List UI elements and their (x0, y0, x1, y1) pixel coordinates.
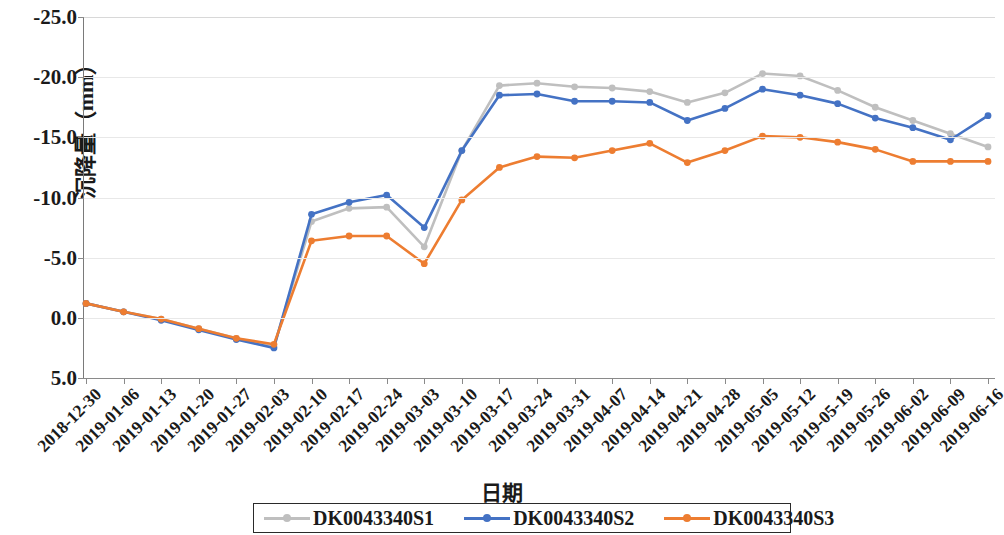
y-tick-mark (78, 258, 84, 259)
data-point (609, 147, 616, 154)
series-DK0043340S3 (83, 133, 992, 348)
data-point (233, 335, 240, 342)
x-axis-title: 日期 (0, 476, 1004, 506)
legend-label: DK0043340S3 (713, 507, 834, 530)
gridline (84, 318, 995, 319)
data-point (120, 308, 127, 315)
data-point (496, 164, 503, 171)
data-point (571, 154, 578, 161)
legend-marker (283, 514, 291, 522)
y-tick-label: 0.0 (7, 305, 77, 330)
data-point (947, 158, 954, 165)
data-point (83, 300, 90, 307)
data-point (421, 224, 428, 231)
data-point (383, 233, 390, 240)
y-tick-mark (78, 318, 84, 319)
data-point (534, 153, 541, 160)
data-point (646, 140, 653, 147)
data-point (195, 325, 202, 332)
gridline (84, 378, 995, 379)
x-tick-mark (838, 378, 839, 384)
x-tick-mark (499, 378, 500, 384)
data-point (872, 146, 879, 153)
data-point (383, 204, 390, 211)
x-tick-mark (763, 378, 764, 384)
x-tick-mark (800, 378, 801, 384)
x-tick-mark (349, 378, 350, 384)
y-tick-mark (78, 378, 84, 379)
legend-marker (683, 514, 691, 522)
chart-legend: DK0043340S1DK0043340S2DK0043340S3 (253, 503, 791, 533)
x-axis-tick-labels: 2018-12-302019-01-062019-01-132019-01-20… (0, 0, 1004, 140)
x-tick-mark (725, 378, 726, 384)
data-point (308, 211, 315, 218)
x-tick-mark (236, 378, 237, 384)
legend-swatch-icon (664, 511, 710, 525)
data-point (346, 205, 353, 212)
y-tick-label: -10.0 (7, 185, 77, 210)
x-tick-mark (913, 378, 914, 384)
x-tick-mark (387, 378, 388, 384)
data-point (722, 147, 729, 154)
data-point (985, 158, 992, 165)
x-tick-mark (950, 378, 951, 384)
x-tick-mark (575, 378, 576, 384)
legend-item-DK0043340S1[interactable]: DK0043340S1 (264, 507, 434, 530)
x-tick-mark (274, 378, 275, 384)
data-point (271, 341, 278, 348)
data-point (158, 316, 165, 323)
x-tick-mark (650, 378, 651, 384)
data-point (985, 144, 992, 151)
y-tick-mark (78, 198, 84, 199)
legend-swatch-icon (264, 511, 310, 525)
legend-marker (483, 514, 491, 522)
y-tick-label: 5.0 (7, 366, 77, 391)
gridline (84, 198, 995, 199)
x-tick-mark (462, 378, 463, 384)
x-tick-mark (875, 378, 876, 384)
x-tick-mark (124, 378, 125, 384)
x-tick-mark (988, 378, 989, 384)
x-tick-mark (161, 378, 162, 384)
legend-swatch-icon (464, 511, 510, 525)
data-point (346, 199, 353, 206)
x-tick-mark (199, 378, 200, 384)
data-point (421, 243, 428, 250)
series-line (86, 136, 988, 344)
data-point (458, 147, 465, 154)
data-point (346, 233, 353, 240)
y-tick-label: -5.0 (7, 245, 77, 270)
data-point (421, 260, 428, 267)
legend-label: DK0043340S2 (513, 507, 634, 530)
x-tick-mark (86, 378, 87, 384)
data-point (308, 237, 315, 244)
legend-item-DK0043340S2[interactable]: DK0043340S2 (464, 507, 634, 530)
legend-item-DK0043340S3[interactable]: DK0043340S3 (664, 507, 834, 530)
settlement-line-chart: 沉降量（mm） -25.0-20.0-15.0-10.0-5.00.05.0 2… (0, 0, 1004, 535)
x-tick-mark (424, 378, 425, 384)
gridline (84, 258, 995, 259)
x-tick-mark (612, 378, 613, 384)
x-tick-mark (537, 378, 538, 384)
data-point (684, 159, 691, 166)
legend-label: DK0043340S1 (313, 507, 434, 530)
x-tick-mark (312, 378, 313, 384)
data-point (909, 158, 916, 165)
x-tick-mark (687, 378, 688, 384)
